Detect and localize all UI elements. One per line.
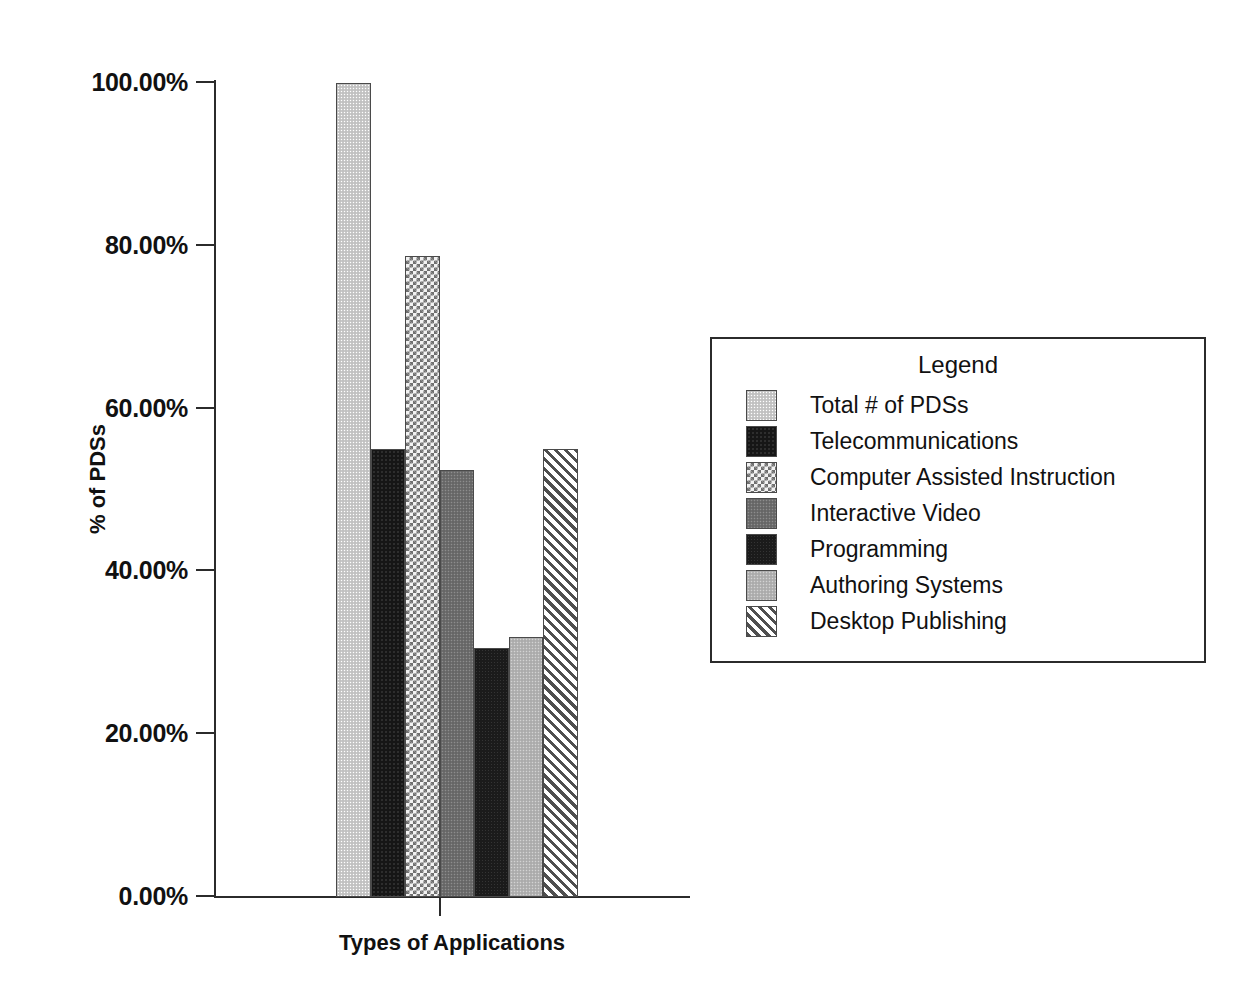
legend-swatch-icon [746,462,777,493]
legend-item[interactable]: Programming [746,531,1204,567]
bar-4 [474,648,509,897]
legend-swatch-icon [746,570,777,601]
legend-item-label: Telecommunications [810,428,1018,455]
legend-item[interactable]: Computer Assisted Instruction [746,459,1204,495]
legend-swatch-icon [746,606,777,637]
bar-2 [405,256,440,897]
legend-list: Total # of PDSsTelecommunicationsCompute… [712,387,1204,639]
y-axis-tick [196,569,215,571]
legend-swatch-icon [746,426,777,457]
legend-item[interactable]: Interactive Video [746,495,1204,531]
bar-0 [336,83,371,897]
y-axis-tick [196,407,215,409]
y-axis-tick [196,81,215,83]
legend-item-label: Programming [810,536,948,563]
legend-box: Legend Total # of PDSsTelecommunications… [710,337,1206,663]
y-axis-tick-label: 20.00% [105,719,188,748]
legend-title: Legend [712,351,1204,379]
legend-item[interactable]: Telecommunications [746,423,1204,459]
legend-item-label: Computer Assisted Instruction [810,464,1116,491]
y-axis-tick [196,244,215,246]
y-axis-title: % of PDSs [85,369,111,589]
bar-1 [371,449,406,897]
legend-item-label: Authoring Systems [810,572,1003,599]
bar-group [336,83,578,897]
x-axis-center-tick [439,898,441,916]
legend-item[interactable]: Total # of PDSs [746,387,1204,423]
bar-3 [440,470,475,897]
legend-item-label: Interactive Video [810,500,981,527]
legend-item[interactable]: Authoring Systems [746,567,1204,603]
y-axis-tick-label: 60.00% [105,393,188,422]
bar-6 [543,449,578,897]
y-axis-tick-label: 100.00% [91,68,188,97]
legend-item-label: Desktop Publishing [810,608,1007,635]
y-axis-tick-label: 80.00% [105,230,188,259]
x-axis-title: Types of Applications [214,930,690,956]
y-axis-tick-label: 0.00% [119,882,188,911]
legend-swatch-icon [746,390,777,421]
y-axis-tick [196,895,215,897]
y-axis-tick [196,732,215,734]
y-axis-tick-label: 40.00% [105,556,188,585]
legend-item-label: Total # of PDSs [810,392,969,419]
y-axis-line [214,80,216,898]
bar-5 [509,637,544,897]
legend-swatch-icon [746,534,777,565]
bar-chart-figure: 100.00%80.00%60.00%40.00%20.00%0.00% % o… [0,0,1234,1002]
legend-swatch-icon [746,498,777,529]
legend-item[interactable]: Desktop Publishing [746,603,1204,639]
